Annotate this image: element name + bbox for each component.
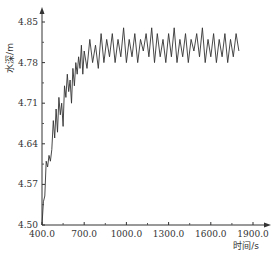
y-ticks: 4.504.574.644.714.784.85 [18, 17, 45, 230]
water-depth-chart: 4.504.574.644.714.784.85 400.0700.01000.… [0, 0, 278, 263]
x-tick-label: 1000.0 [111, 229, 143, 239]
x-tick-label: 1900.0 [237, 229, 269, 239]
y-axis-title: 水深/m [4, 43, 15, 73]
x-tick-label: 700.0 [71, 229, 97, 239]
x-tick-label: 1300.0 [153, 229, 185, 239]
y-tick-label: 4.78 [18, 58, 38, 68]
y-tick-label: 4.71 [18, 98, 38, 108]
x-axis-arrow-icon [264, 223, 271, 228]
x-tick-label: 400.0 [29, 229, 55, 239]
y-tick-label: 4.57 [18, 179, 38, 189]
y-tick-label: 4.64 [18, 139, 38, 149]
x-tick-label: 1600.0 [195, 229, 227, 239]
y-axis-arrow-icon [40, 7, 45, 14]
axes [40, 7, 272, 228]
x-axis-title: 时间/s [233, 240, 259, 251]
water-depth-series-line [42, 28, 239, 225]
y-tick-label: 4.85 [18, 17, 38, 27]
